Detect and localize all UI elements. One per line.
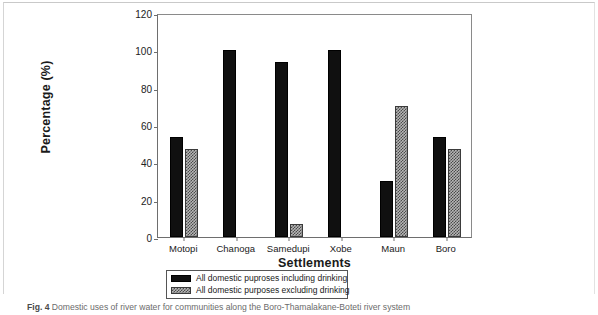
x-tick-mark-chanoga bbox=[236, 237, 237, 241]
y-tick-mark-80 bbox=[154, 90, 158, 91]
bar-maun-series2 bbox=[395, 106, 408, 237]
y-tick-label-40: 40 bbox=[118, 159, 152, 169]
figure-caption: Fig. 4 Domestic uses of river water for … bbox=[27, 302, 587, 312]
y-tick-label-0: 0 bbox=[118, 234, 152, 244]
x-tick-mark-motopi bbox=[184, 237, 185, 241]
y-tick-mark-100 bbox=[154, 52, 158, 53]
y-tick-label-80: 80 bbox=[118, 85, 152, 95]
bar-samedupi-series2 bbox=[290, 224, 303, 237]
legend-label-2: All domestic purposes excluding drinking bbox=[196, 286, 350, 295]
y-tick-label-120: 120 bbox=[118, 10, 152, 20]
x-tick-mark-xobe bbox=[341, 237, 342, 241]
y-tick-mark-0 bbox=[154, 239, 158, 240]
y-tick-label-60: 60 bbox=[118, 122, 152, 132]
legend-item-1: All domestic puproses including drinking bbox=[171, 273, 343, 284]
bar-boro-series2 bbox=[448, 149, 461, 237]
legend-label-1: All domestic puproses including drinking bbox=[196, 274, 347, 283]
x-tick-label-xobe: Xobe bbox=[330, 243, 352, 254]
x-tick-label-boro: Boro bbox=[436, 243, 456, 254]
x-tick-label-samedupi: Samedupi bbox=[267, 243, 310, 254]
x-axis-title: Settlements bbox=[157, 256, 472, 270]
y-tick-mark-20 bbox=[154, 202, 158, 203]
x-tick-mark-maun bbox=[394, 237, 395, 241]
legend-item-2: All domestic purposes excluding drinking bbox=[171, 285, 343, 296]
chart-legend: All domestic puproses including drinking… bbox=[166, 270, 348, 299]
caption-label: Fig. 4 bbox=[27, 302, 49, 312]
y-tick-label-20: 20 bbox=[118, 197, 152, 207]
bar-chanoga-series1 bbox=[223, 50, 236, 237]
bar-boro-series1 bbox=[433, 137, 446, 237]
figure-container: Percentage (%) 020406080100120 MotopiCha… bbox=[0, 0, 598, 315]
plot-area: 020406080100120 bbox=[157, 14, 472, 238]
caption-text: Domestic uses of river water for communi… bbox=[52, 302, 410, 312]
x-tick-mark-boro bbox=[446, 237, 447, 241]
x-tick-label-maun: Maun bbox=[381, 243, 405, 254]
legend-swatch-hatch bbox=[171, 287, 191, 294]
bar-motopi-series1 bbox=[170, 137, 183, 237]
bar-samedupi-series1 bbox=[275, 62, 288, 237]
y-tick-mark-40 bbox=[154, 164, 158, 165]
legend-swatch-solid bbox=[171, 275, 191, 282]
x-tick-label-chanoga: Chanoga bbox=[216, 243, 255, 254]
y-tick-mark-120 bbox=[154, 15, 158, 16]
x-tick-label-motopi: Motopi bbox=[169, 243, 198, 254]
bar-xobe-series1 bbox=[328, 50, 341, 237]
bar-motopi-series2 bbox=[185, 149, 198, 237]
y-tick-mark-60 bbox=[154, 127, 158, 128]
y-tick-label-100: 100 bbox=[118, 47, 152, 57]
bar-maun-series1 bbox=[380, 181, 393, 237]
x-tick-mark-samedupi bbox=[289, 237, 290, 241]
y-axis-title: Percentage (%) bbox=[39, 17, 53, 197]
